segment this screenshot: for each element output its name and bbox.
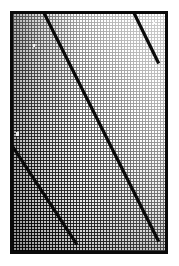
diagonal-line-3-lower-left — [13, 132, 76, 243]
scan-speck — [153, 22, 155, 24]
diagonal-line-overlay — [13, 14, 165, 251]
figure-root — [0, 0, 179, 266]
diagonal-line-2-main-long — [43, 14, 158, 240]
scan-speck — [33, 44, 35, 47]
plot-frame — [10, 11, 168, 254]
scan-speck — [16, 132, 19, 136]
plot-surface — [13, 14, 165, 251]
